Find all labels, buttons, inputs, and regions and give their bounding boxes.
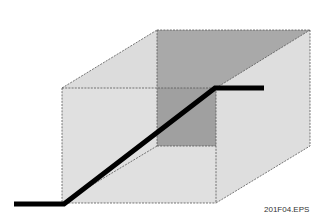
box-diagram [0,0,331,221]
figure-caption: 201F04.EPS [264,205,309,214]
